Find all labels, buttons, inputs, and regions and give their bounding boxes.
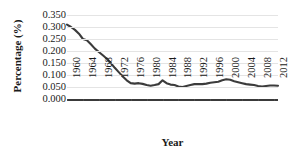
- x-tick-label: 2008: [262, 57, 273, 103]
- x-tick-mark: [163, 99, 164, 101]
- x-tick-label: 1960: [71, 57, 82, 103]
- x-tick-label: 1980: [151, 57, 162, 103]
- x-tick-mark: [226, 99, 227, 101]
- x-tick-mark: [274, 99, 275, 101]
- x-axis-title: Year: [67, 136, 278, 148]
- x-tick-mark: [99, 99, 100, 101]
- x-tick-mark: [178, 99, 179, 101]
- x-tick-label: 2004: [246, 57, 257, 103]
- x-tick-label: 1968: [103, 57, 114, 103]
- x-tick-label: 1972: [119, 57, 130, 103]
- x-tick-mark: [115, 99, 116, 101]
- x-tick-label: 2012: [278, 57, 289, 103]
- chart-container: Percentage (%) 0.3500.3000.2500.2000.150…: [0, 0, 293, 151]
- x-axis-tick-labels: 1960196419681972197619801984198819921996…: [0, 0, 293, 151]
- x-tick-label: 1996: [214, 57, 225, 103]
- x-tick-mark: [147, 99, 148, 101]
- x-tick-mark: [210, 99, 211, 101]
- x-tick-label: 1988: [182, 57, 193, 103]
- x-tick-mark: [242, 99, 243, 101]
- x-tick-label: 1964: [87, 57, 98, 103]
- x-tick-mark: [131, 99, 132, 101]
- x-tick-label: 1976: [135, 57, 146, 103]
- x-tick-label: 1984: [167, 57, 178, 103]
- x-tick-mark: [194, 99, 195, 101]
- x-tick-mark: [67, 99, 68, 101]
- x-tick-mark: [258, 99, 259, 101]
- x-tick-label: 1992: [198, 57, 209, 103]
- x-tick-label: 2000: [230, 57, 241, 103]
- x-tick-mark: [83, 99, 84, 101]
